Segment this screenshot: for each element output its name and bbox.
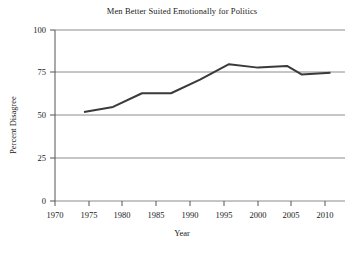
y-axis-title: Percent Disagree xyxy=(8,70,18,180)
x-tick-label-2000: 2000 xyxy=(250,210,267,220)
data-line-percent-disagree xyxy=(84,64,331,112)
y-tick-label-50: 50 xyxy=(38,110,47,120)
x-tick-label-1970: 1970 xyxy=(47,210,64,220)
y-tick-label-100: 100 xyxy=(33,25,46,35)
x-axis-title: Year xyxy=(0,228,364,238)
y-axis-ticks xyxy=(50,30,55,201)
x-tick-label-2010: 2010 xyxy=(317,210,334,220)
gridlines xyxy=(55,30,345,201)
y-tick-label-75: 75 xyxy=(38,67,47,77)
x-axis-ticks xyxy=(55,201,325,206)
y-tick-label-25: 25 xyxy=(38,153,47,163)
x-axis-tick-labels: 1970 1975 1980 1985 1990 1995 2000 2005 … xyxy=(47,210,334,220)
x-tick-label-1995: 1995 xyxy=(216,210,233,220)
x-tick-label-1975: 1975 xyxy=(81,210,98,220)
x-tick-label-1985: 1985 xyxy=(148,210,165,220)
plot-area: 100 75 50 25 0 1970 1975 1980 1985 1990 … xyxy=(0,0,364,256)
y-tick-label-0: 0 xyxy=(42,196,46,206)
x-tick-label-1990: 1990 xyxy=(182,210,199,220)
x-tick-label-1980: 1980 xyxy=(114,210,131,220)
y-axis-tick-labels: 100 75 50 25 0 xyxy=(33,25,46,206)
y-axis-title-wrap: Percent Disagree xyxy=(6,72,20,182)
x-tick-label-2005: 2005 xyxy=(283,210,300,220)
chart-figure: Men Better Suited Emotionally for Politi… xyxy=(0,0,364,256)
